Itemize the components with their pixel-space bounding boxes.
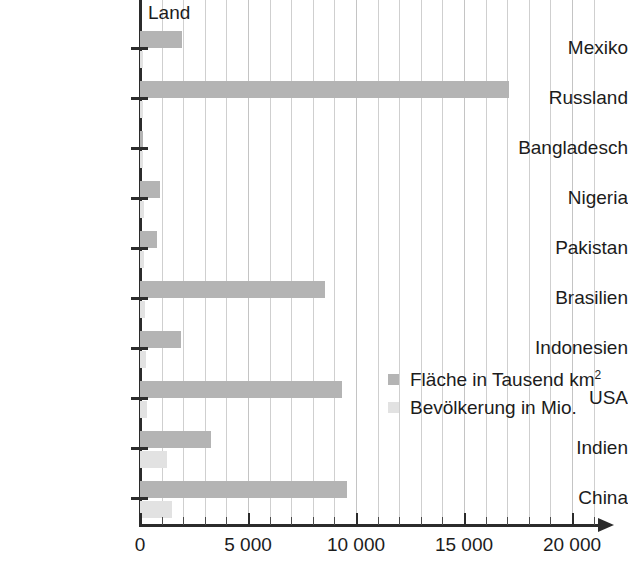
x-axis-tick-minor <box>162 517 163 525</box>
bar-area-china <box>140 481 347 498</box>
bar-area-usa <box>140 381 342 398</box>
axis-title-land: Land <box>148 2 190 24</box>
legend-item-flaeche: Fläche in Tausend km2 <box>388 365 601 393</box>
bar-chart: Land MexikoRusslandBangladeschNigeriaPak… <box>0 0 628 578</box>
y-axis-label-pakistan: Pakistan <box>500 238 628 257</box>
gridline <box>291 0 292 525</box>
y-axis-tick <box>131 447 148 450</box>
y-axis-label-indien: Indien <box>500 438 628 457</box>
bar-area-indien <box>140 431 211 448</box>
legend-item-bevoelkerung: Bevölkerung in Mio. <box>388 393 601 421</box>
y-axis-tick <box>131 397 148 400</box>
bar-population-nigeria <box>140 201 144 218</box>
legend: Fläche in Tausend km2 Bevölkerung in Mio… <box>388 365 601 421</box>
x-axis-tick-major <box>464 513 466 526</box>
bar-area-brasilien <box>140 281 325 298</box>
x-axis-label-15000: 15 000 <box>435 534 493 555</box>
legend-swatch-flaeche-icon <box>388 374 399 385</box>
x-axis-tick-minor <box>334 517 335 525</box>
legend-label-flaeche-text: Fläche in Tausend km <box>410 369 594 390</box>
gridline <box>270 0 271 525</box>
x-axis-label-5000: 5 000 <box>224 534 272 555</box>
gridline <box>378 0 379 525</box>
gridline <box>464 0 465 525</box>
gridline <box>356 0 357 525</box>
y-axis-label-brasilien: Brasilien <box>500 288 628 307</box>
gridline <box>399 0 400 525</box>
y-axis-tick <box>131 497 148 500</box>
bar-area-bangladesch <box>140 131 143 148</box>
x-axis-tick-major <box>572 513 574 526</box>
x-axis-tick-minor <box>529 517 530 525</box>
y-axis-tick <box>131 147 148 150</box>
x-axis-label-0: 0 <box>135 534 146 555</box>
bar-population-indien <box>140 451 167 468</box>
y-axis-tick <box>131 297 148 300</box>
x-axis-tick-major <box>356 513 358 526</box>
y-axis-label-nigeria: Nigeria <box>500 188 628 207</box>
x-axis-line <box>139 524 600 527</box>
bar-population-russland <box>140 101 143 118</box>
x-axis-tick-minor <box>486 517 487 525</box>
bar-population-indonesien <box>140 351 146 368</box>
bar-population-china <box>140 501 172 518</box>
x-axis-tick-minor <box>421 517 422 525</box>
legend-label-bevoelkerung: Bevölkerung in Mio. <box>410 397 577 418</box>
gridline <box>421 0 422 525</box>
y-axis-label-indonesien: Indonesien <box>500 338 628 357</box>
x-axis-tick-minor <box>270 517 271 525</box>
bar-area-mexiko <box>140 31 182 48</box>
bar-area-russland <box>140 81 509 98</box>
y-axis-tick <box>131 197 148 200</box>
gridline <box>334 0 335 525</box>
bar-population-brasilien <box>140 301 145 318</box>
x-axis-tick-minor <box>399 517 400 525</box>
y-axis-label-russland: Russland <box>500 88 628 107</box>
x-axis-tick-major <box>140 513 142 526</box>
y-axis-tick <box>131 97 148 100</box>
x-axis-tick-minor <box>226 517 227 525</box>
bar-area-nigeria <box>140 181 160 198</box>
bar-population-usa <box>140 401 147 418</box>
x-axis-tick-major <box>248 513 250 526</box>
legend-label-flaeche-superscript: 2 <box>594 367 601 381</box>
bar-area-pakistan <box>140 231 157 248</box>
bar-population-pakistan <box>140 251 144 268</box>
bar-area-indonesien <box>140 331 181 348</box>
gridline <box>486 0 487 525</box>
gridline <box>313 0 314 525</box>
gridline <box>442 0 443 525</box>
x-axis-arrow-icon <box>598 518 614 532</box>
gridline <box>226 0 227 525</box>
legend-label-flaeche: Fläche in Tausend km2 <box>410 369 601 390</box>
y-axis-tick <box>131 347 148 350</box>
y-axis-label-bangladesch: Bangladesch <box>500 138 628 157</box>
bar-population-bangladesch <box>140 151 143 168</box>
x-axis-tick-minor <box>183 517 184 525</box>
x-axis-tick-minor <box>313 517 314 525</box>
x-axis-tick-minor <box>205 517 206 525</box>
x-axis-tick-minor <box>442 517 443 525</box>
x-axis-tick-minor <box>291 517 292 525</box>
x-axis-label-20000: 20 000 <box>543 534 601 555</box>
x-axis-tick-minor <box>550 517 551 525</box>
x-axis-tick-minor <box>378 517 379 525</box>
bar-population-mexiko <box>140 51 143 68</box>
y-axis-tick <box>131 47 148 50</box>
gridline <box>248 0 249 525</box>
y-axis-tick <box>131 247 148 250</box>
x-axis-tick-minor <box>507 517 508 525</box>
y-axis-label-mexiko: Mexiko <box>500 38 628 57</box>
x-axis-tick-minor <box>594 517 595 525</box>
legend-swatch-bevoelkerung-icon <box>388 402 399 413</box>
x-axis-label-10000: 10 000 <box>327 534 385 555</box>
y-axis-label-china: China <box>500 488 628 507</box>
